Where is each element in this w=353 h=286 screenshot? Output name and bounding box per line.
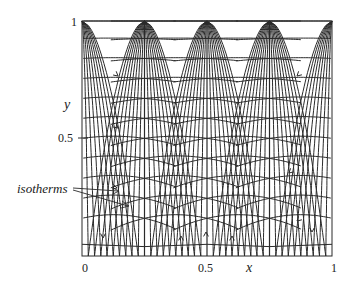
flux-line [326,21,332,256]
y-tick-label-0.5: 0.5 [58,131,73,145]
x-tick-label-1: 1 [331,261,337,275]
flow-field-figure: 1 0.5 y 0 0.5 x 1 isotherms [0,0,353,286]
arrow-icon [297,71,302,76]
arrow-icon [204,232,209,236]
y-axis-label: y [62,97,71,112]
isotherms-label: isotherms [17,181,68,196]
x-tick-label-0.5: 0.5 [198,261,213,275]
isotherms-leader-1 [73,188,118,191]
flux-and-isotherm-curves [82,21,332,256]
x-tick-label-0: 0 [82,261,88,275]
y-tick-label-1: 1 [71,15,77,29]
arrow-icon [113,71,118,76]
x-axis-label: x [245,260,253,275]
